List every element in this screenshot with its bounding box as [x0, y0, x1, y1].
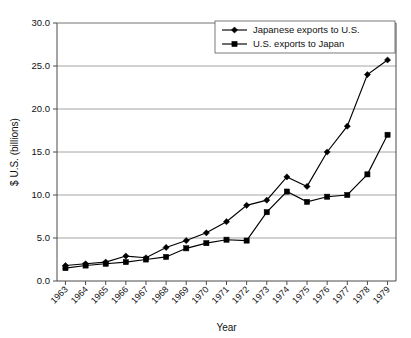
legend-label: Japanese exports to U.S. [253, 24, 360, 35]
series-line [65, 60, 387, 266]
gridlines [57, 23, 396, 238]
data-point [143, 257, 148, 262]
x-tick-label-1977: 1977 [330, 284, 351, 305]
y-tick-label-30: 30.0 [32, 17, 51, 28]
x-tick-label-1970: 1970 [190, 284, 211, 305]
y-tick-label-5: 5.0 [37, 232, 50, 243]
series-line [65, 135, 387, 268]
y-tick-label-25: 25.0 [32, 60, 51, 71]
x-tick-label-1972: 1972 [230, 284, 251, 305]
y-tick-label-20: 20.0 [32, 103, 51, 114]
data-point [244, 238, 249, 243]
legend-marker-icon [232, 41, 237, 46]
series-japanese-exports [62, 57, 390, 269]
data-point [304, 183, 310, 189]
chart-container: 0.05.010.015.020.025.030.0 1963196419651… [0, 0, 411, 338]
y-tick-label-15: 15.0 [32, 146, 51, 157]
x-tick-label-1964: 1964 [69, 284, 90, 305]
x-tick-label-1974: 1974 [270, 284, 291, 305]
data-series [62, 57, 390, 271]
series-us-exports [63, 132, 390, 271]
chart-legend: Japanese exports to U.S.U.S. exports to … [215, 21, 395, 53]
data-point [365, 172, 370, 177]
data-point [203, 230, 209, 236]
x-tick-label-1965: 1965 [89, 284, 110, 305]
data-point [163, 244, 169, 250]
legend-label: U.S. exports to Japan [253, 38, 344, 49]
data-point [63, 266, 68, 271]
x-tick-label-1971: 1971 [210, 284, 231, 305]
y-axis-title: $ U.S. (billions) [9, 118, 20, 186]
y-tick-label-0: 0.0 [37, 275, 50, 286]
x-tick-label-1969: 1969 [169, 284, 190, 305]
x-axis-ticks: 1963196419651966196719681969197019711972… [49, 281, 392, 306]
data-point [304, 199, 309, 204]
data-point [103, 261, 108, 266]
x-tick-label-1979: 1979 [371, 284, 392, 305]
data-point [123, 253, 129, 259]
data-point [264, 210, 269, 215]
y-tick-label-10: 10.0 [32, 189, 51, 200]
data-point [224, 237, 229, 242]
x-tick-label-1976: 1976 [310, 284, 331, 305]
data-point [204, 241, 209, 246]
data-point [184, 246, 189, 251]
x-tick-label-1978: 1978 [351, 284, 372, 305]
x-tick-label-1966: 1966 [109, 284, 130, 305]
data-point [83, 263, 88, 268]
data-point [164, 254, 169, 259]
x-tick-label-1968: 1968 [149, 284, 170, 305]
data-point [123, 259, 128, 264]
data-point [325, 194, 330, 199]
data-point [385, 132, 390, 137]
data-point [345, 192, 350, 197]
line-chart: 0.05.010.015.020.025.030.0 1963196419651… [0, 0, 411, 338]
x-tick-label-1963: 1963 [49, 284, 70, 305]
x-axis-title: Year [216, 322, 237, 333]
x-tick-label-1973: 1973 [250, 284, 271, 305]
x-tick-label-1975: 1975 [290, 284, 311, 305]
x-tick-label-1967: 1967 [129, 284, 150, 305]
y-axis-ticks: 0.05.010.015.020.025.030.0 [32, 17, 58, 286]
data-point [284, 189, 289, 194]
